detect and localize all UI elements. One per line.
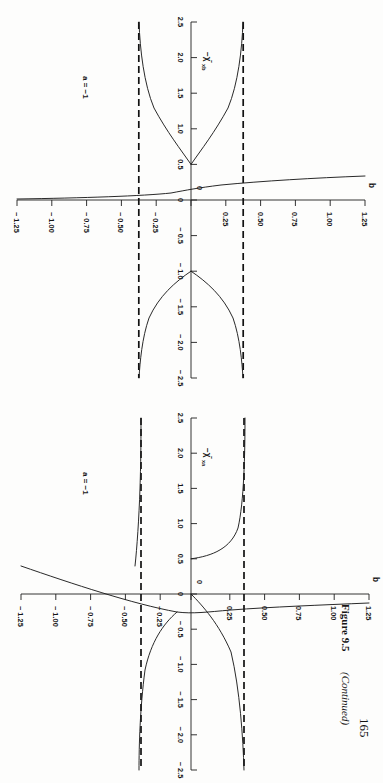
svg-text:− 0.75: − 0.75: [82, 212, 91, 233]
svg-text:1.25: 1.25: [364, 606, 373, 620]
svg-text:2.5: 2.5: [176, 413, 185, 423]
svg-text:0.25: 0.25: [225, 606, 234, 620]
svg-text:− 1.0: − 1.0: [176, 656, 185, 673]
y-axis-label: b: [367, 183, 376, 188]
y-tick-marks: [17, 200, 365, 206]
svg-text:0: 0: [195, 186, 204, 190]
svg-text:− 1.00: − 1.00: [51, 606, 60, 627]
svg-text:− 0.5: − 0.5: [176, 227, 185, 244]
svg-text:− 0.5: − 0.5: [176, 621, 185, 638]
svg-text:− 0.50: − 0.50: [116, 212, 125, 233]
x-axis-label: −χ̄: [203, 448, 212, 459]
svg-text:2.5: 2.5: [176, 17, 185, 27]
svg-text:1.00: 1.00: [325, 212, 334, 226]
lower-plot-svg: 2.5 2.0 1.5 1.0 0.5 0 − 0.5 − 1.0 − 1.5 …: [0, 398, 383, 783]
y-axis-label: b: [371, 577, 380, 582]
svg-text:− 1.0: − 1.0: [176, 263, 185, 280]
x-axis-label-subscript: xa: [201, 460, 207, 467]
figure-lower-plot: 2.5 2.0 1.5 1.0 0.5 0 − 0.5 − 1.0 − 1.5 …: [0, 398, 383, 783]
svg-text:0.25: 0.25: [221, 212, 230, 226]
svg-text:− 1.00: − 1.00: [47, 212, 56, 233]
y-tick-labels: 1.25 1.00 0.75 0.50 0.25 0 − 0.25 − 0.50…: [12, 186, 369, 233]
curve-right-lower: [139, 271, 191, 378]
svg-text:1.0: 1.0: [176, 518, 185, 528]
svg-text:0.50: 0.50: [260, 606, 269, 620]
figure-caption-label: Figure 9.5: [340, 604, 352, 651]
x-tick-labels: 2.5 2.0 1.5 1.0 0.5 0 − 0.5 − 1.0 − 1.5 …: [176, 413, 185, 778]
svg-text:0: 0: [176, 198, 185, 202]
svg-text:2.0: 2.0: [176, 52, 185, 62]
svg-text:− 1.25: − 1.25: [16, 606, 25, 627]
svg-text:− 2.0: − 2.0: [176, 726, 185, 743]
x-tick-marks: [191, 22, 197, 378]
curve-right-lower: [139, 612, 177, 770]
svg-text:0: 0: [195, 580, 204, 584]
svg-text:− 0.25: − 0.25: [155, 606, 164, 627]
svg-text:− 1.5: − 1.5: [176, 298, 185, 315]
svg-text:0: 0: [176, 592, 185, 596]
figure-caption-note: (Continued): [340, 672, 352, 725]
curve-left-lower: [135, 418, 141, 566]
svg-text:0.75: 0.75: [290, 212, 299, 226]
svg-text:− 2.5: − 2.5: [176, 762, 185, 779]
svg-text:2.0: 2.0: [176, 448, 185, 458]
curve-left-upper: [191, 22, 243, 164]
parameter-annotation: a = −1: [81, 472, 90, 495]
x-tick-marks: [191, 418, 197, 770]
svg-text:0.75: 0.75: [294, 606, 303, 620]
x-axis-label-subscript: xb: [201, 64, 207, 71]
svg-text:0.5: 0.5: [176, 159, 185, 169]
curve-left-upper: [191, 418, 245, 559]
svg-text:− 0.50: − 0.50: [120, 606, 129, 627]
svg-text:1.5: 1.5: [176, 483, 185, 493]
svg-text:1.0: 1.0: [176, 124, 185, 134]
svg-text:0.5: 0.5: [176, 554, 185, 564]
svg-text:0.50: 0.50: [256, 212, 265, 226]
curve-right-upper: [191, 594, 244, 770]
svg-text:− 1.5: − 1.5: [176, 691, 185, 708]
book-page: 2.5 2.0 1.5 1.0 0.5 0 − 0.5 − 1.0 − 1.5 …: [0, 0, 383, 783]
curve-central-steep: [21, 566, 369, 613]
curve-right-upper: [191, 271, 243, 378]
upper-plot-svg: 2.5 2.0 1.5 1.0 0.5 0 − 0.5 − 1.0 − 1.5 …: [0, 0, 383, 400]
x-tick-labels: 2.5 2.0 1.5 1.0 0.5 0 − 0.5 − 1.0 − 1.5 …: [176, 17, 185, 386]
svg-text:− 0.75: − 0.75: [86, 606, 95, 627]
parameter-annotation: a = −1: [81, 76, 90, 99]
page-number: 165: [356, 718, 372, 738]
figure-upper-plot: 2.5 2.0 1.5 1.0 0.5 0 − 0.5 − 1.0 − 1.5 …: [0, 0, 383, 400]
svg-text:− 1.25: − 1.25: [12, 212, 21, 233]
svg-text:1.00: 1.00: [329, 606, 338, 620]
svg-text:− 2.5: − 2.5: [176, 370, 185, 387]
y-tick-labels: 1.25 1.00 0.75 0.50 0.25 0 − 0.25 − 0.50…: [16, 580, 373, 627]
svg-text:1.25: 1.25: [360, 212, 369, 226]
x-axis-label: −χ̄: [203, 52, 212, 63]
svg-text:− 2.0: − 2.0: [176, 334, 185, 351]
svg-text:− 0.25: − 0.25: [151, 212, 160, 233]
svg-text:1.5: 1.5: [176, 88, 185, 98]
y-tick-marks: [21, 594, 369, 600]
